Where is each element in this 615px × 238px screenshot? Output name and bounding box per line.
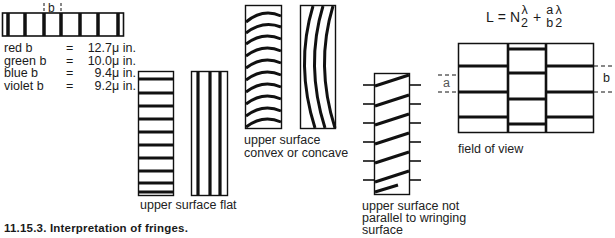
label-flat: upper surface flat (140, 198, 237, 212)
label-field-of-view: field of view (458, 142, 523, 156)
field-of-view-grid (438, 44, 613, 133)
figure-caption: 11.15.3. Interpretation of fringes. (4, 222, 188, 234)
slanted-fringes (363, 74, 421, 195)
convex-curved-fringes (246, 6, 282, 129)
label-convex-line2: convex or concave (244, 146, 348, 160)
wavelength-legend: red b = 12.7 μ in. green b = 10.0 μ in. … (4, 42, 136, 92)
legend-row-red: red b = 12.7 μ in. (4, 42, 136, 55)
label-not-parallel-line3: surface (362, 223, 403, 237)
dimension-b-fov-label: b (603, 71, 610, 85)
label-convex-line1: upper surface (244, 133, 320, 147)
dimension-a-label: a (443, 76, 450, 90)
dimension-b-label: b (48, 1, 55, 15)
legend-row-violet: violet b = 9.2 μ in. (4, 80, 136, 93)
flat-horizontal-fringes (139, 72, 174, 196)
reference-strip (3, 3, 124, 36)
fraction-lambda-over-2-second: λ 2 (555, 4, 562, 30)
fringe-diagrams (0, 0, 615, 238)
fraction-lambda-over-2: λ 2 (521, 4, 528, 30)
flat-vertical-fringes (192, 72, 228, 196)
legend-row-blue: blue b = 9.4 μ in. (4, 67, 136, 80)
length-formula: L = N λ 2 + a b λ 2 (486, 4, 563, 30)
concave-curved-fringes (301, 6, 336, 129)
fraction-a-over-b: a b (546, 4, 553, 30)
